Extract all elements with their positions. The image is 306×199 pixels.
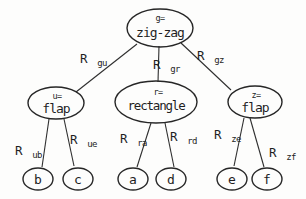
tree-diagram: g= zig-zag u= flap r= rectangle z= flap …: [0, 0, 306, 199]
edge-label-Rgu-sub: gu: [97, 58, 107, 68]
node-r-value: rectangle: [128, 98, 186, 113]
edge-label-Rze-base: R: [214, 127, 222, 142]
edge-label-Rgr-base: R: [153, 57, 161, 72]
edge-label-Rzf-base: R: [269, 145, 277, 160]
node-u-var-label: u=: [52, 91, 62, 101]
leaf-f: f: [252, 168, 282, 190]
leaf-e: e: [217, 168, 247, 190]
node-z-var-label: z=: [251, 90, 261, 100]
edge-label-Rub-base: R: [15, 143, 23, 158]
edge-label-Rra-base: R: [120, 131, 128, 146]
node-z-value: flap: [241, 100, 269, 115]
edge-label-Rra-sub: ra: [137, 138, 147, 148]
leaf-f-label: f: [263, 172, 271, 187]
edge-label-Rub-sub: ub: [32, 150, 42, 160]
edge-label-Rgz: R gz: [197, 45, 224, 65]
edge-label-Rze: R ze: [214, 124, 241, 144]
leaf-e-label: e: [228, 172, 236, 187]
leaf-d-label: d: [167, 172, 175, 187]
node-r: r= rectangle: [115, 81, 197, 123]
edge-label-Rra: R ra: [120, 128, 147, 148]
leaf-d: d: [156, 168, 186, 190]
leaf-b: b: [23, 168, 53, 190]
leaf-b-label: b: [34, 172, 42, 187]
edge-label-Rgr: R gr: [153, 54, 181, 74]
edge-label-Rrd: R rd: [170, 126, 197, 146]
node-root: g= zig-zag: [127, 9, 193, 47]
leaf-c: c: [63, 168, 93, 190]
edge-label-Rub: R ub: [15, 140, 42, 160]
edge-z-to-f-line: [250, 118, 264, 167]
edge-label-Rgz-base: R: [197, 48, 205, 63]
node-root-value: zig-zag: [136, 25, 184, 40]
edge-label-Rue-sub: ue: [87, 139, 97, 149]
edge-label-Rgu: R gu: [80, 48, 107, 68]
node-z: z= flap: [228, 86, 282, 118]
edge-label-Rrd-sub: rd: [187, 136, 197, 146]
node-u-value: flap: [42, 101, 70, 116]
edge-label-Rue-base: R: [70, 132, 78, 147]
edge-label-Rgu-base: R: [80, 51, 88, 66]
node-u: u= flap: [28, 87, 84, 119]
leaf-c-label: c: [74, 172, 82, 187]
edge-label-Rgz-sub: gz: [214, 55, 224, 65]
edge-label-Rzf-sub: zf: [286, 152, 296, 162]
leaf-a-label: a: [129, 172, 137, 187]
edge-label-Rzf: R zf: [269, 142, 296, 162]
node-r-var-label: r=: [153, 87, 163, 97]
diagram-svg: g= zig-zag u= flap r= rectangle z= flap …: [0, 0, 306, 199]
edge-label-Rue: R ue: [70, 129, 97, 149]
edge-u-to-b-line: [42, 119, 49, 167]
edge-label-Rze-sub: ze: [231, 134, 241, 144]
edge-label-Rgr-sub: gr: [170, 64, 181, 74]
leaf-a: a: [118, 168, 148, 190]
edge-label-Rrd-base: R: [170, 129, 178, 144]
node-root-var-label: g=: [155, 13, 165, 23]
